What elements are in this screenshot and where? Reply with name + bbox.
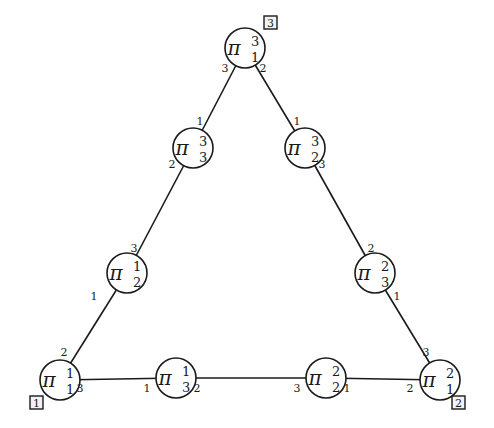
port-label: 3 bbox=[423, 346, 430, 359]
node-superscript: 3 bbox=[251, 34, 259, 49]
pi-symbol: π bbox=[174, 136, 189, 160]
pi-symbol: π bbox=[356, 261, 371, 285]
pi-symbol: π bbox=[41, 368, 56, 392]
port-label: 2 bbox=[194, 382, 201, 395]
node-subscript: 2 bbox=[332, 380, 340, 395]
node-pi-3-3: π33 bbox=[173, 128, 213, 168]
triangle-diagram: π31π33π32π12π23π11π13π22π21 321213312123… bbox=[0, 0, 494, 428]
node-subscript: 2 bbox=[133, 275, 141, 290]
node-pi-2-1: π12 bbox=[107, 253, 147, 293]
nodes-layer: π31π33π32π12π23π11π13π22π21 bbox=[40, 28, 460, 400]
node-subscript: 3 bbox=[381, 275, 389, 290]
port-label: 2 bbox=[260, 62, 267, 75]
node-subscript: 3 bbox=[199, 150, 207, 165]
corner-box-3: 3 bbox=[264, 16, 277, 30]
corner-boxes-layer: 312 bbox=[30, 16, 465, 410]
pi-symbol: π bbox=[226, 36, 241, 60]
port-labels-layer: 321213312123123132 bbox=[61, 62, 430, 395]
node-pi-3-1: π13 bbox=[156, 358, 196, 398]
port-label: 3 bbox=[77, 382, 84, 395]
corner-box-label: 1 bbox=[33, 397, 40, 410]
pi-symbol: π bbox=[157, 366, 172, 390]
port-label: 3 bbox=[319, 158, 326, 171]
node-superscript: 2 bbox=[446, 366, 454, 381]
corner-box-1: 1 bbox=[30, 396, 43, 410]
pi-symbol: π bbox=[307, 366, 322, 390]
port-label: 3 bbox=[294, 382, 301, 395]
port-label: 2 bbox=[169, 158, 176, 171]
node-subscript: 3 bbox=[182, 380, 190, 395]
node-subscript: 1 bbox=[251, 50, 259, 65]
node-pi-1-1: π11 bbox=[40, 360, 80, 400]
node-pi-1-2: π21 bbox=[420, 360, 460, 400]
node-subscript: 1 bbox=[446, 382, 454, 397]
port-label: 1 bbox=[294, 115, 301, 128]
node-superscript: 2 bbox=[332, 364, 340, 379]
node-pi-2-2: π22 bbox=[306, 358, 346, 398]
pi-symbol: π bbox=[421, 368, 436, 392]
port-label: 1 bbox=[144, 382, 151, 395]
pi-symbol: π bbox=[286, 136, 301, 160]
port-label: 3 bbox=[131, 242, 138, 255]
node-superscript: 1 bbox=[66, 366, 74, 381]
edge-line bbox=[305, 148, 375, 273]
port-label: 1 bbox=[344, 382, 351, 395]
node-superscript: 1 bbox=[182, 364, 190, 379]
corner-box-label: 3 bbox=[267, 17, 274, 30]
corner-box-label: 2 bbox=[455, 397, 462, 410]
port-label: 2 bbox=[61, 346, 68, 359]
port-label: 3 bbox=[222, 62, 229, 75]
pi-symbol: π bbox=[108, 261, 123, 285]
node-superscript: 3 bbox=[311, 134, 319, 149]
port-label: 1 bbox=[91, 290, 98, 303]
port-label: 1 bbox=[197, 115, 204, 128]
node-subscript: 1 bbox=[66, 382, 74, 397]
node-superscript: 1 bbox=[133, 259, 141, 274]
node-superscript: 2 bbox=[381, 259, 389, 274]
edges-layer bbox=[60, 48, 440, 380]
node-superscript: 3 bbox=[199, 134, 207, 149]
node-pi-3-2: π23 bbox=[355, 253, 395, 293]
corner-box-2: 2 bbox=[452, 396, 465, 410]
port-label: 1 bbox=[394, 290, 401, 303]
port-label: 2 bbox=[407, 382, 414, 395]
port-label: 2 bbox=[368, 242, 375, 255]
